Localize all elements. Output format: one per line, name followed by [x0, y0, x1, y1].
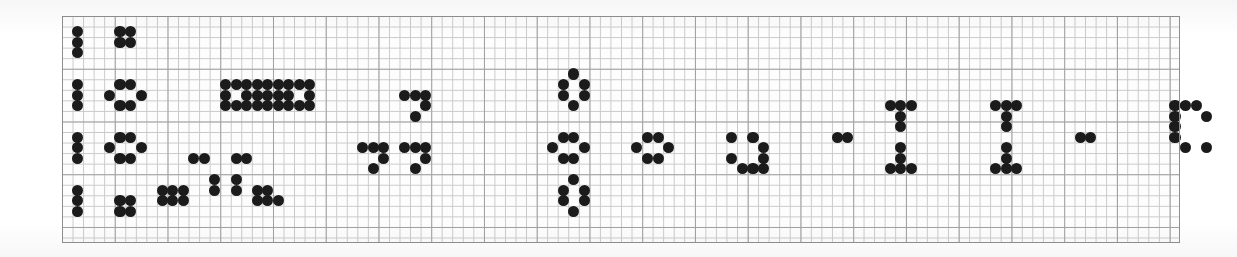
grid-dot — [568, 100, 579, 111]
grid-dot — [231, 79, 242, 90]
grid-dot — [72, 132, 83, 143]
grid-dot — [157, 195, 168, 206]
graph-paper-grid — [62, 16, 1180, 243]
grid-dot — [368, 163, 379, 174]
grid-dot — [241, 90, 252, 101]
grid-dot — [72, 142, 83, 153]
grid-dot — [157, 185, 168, 196]
grid-dot — [758, 163, 769, 174]
grid-dot — [747, 163, 758, 174]
grid-dot — [125, 26, 136, 37]
grid-dot — [747, 132, 758, 143]
grid-dot — [737, 163, 748, 174]
grid-dot — [579, 195, 590, 206]
grid-dot — [188, 153, 199, 164]
grid-dot — [114, 132, 125, 143]
grid-dot — [262, 185, 273, 196]
grid-dot — [1001, 100, 1012, 111]
grid-dot — [72, 79, 83, 90]
grid-dot — [368, 142, 379, 153]
grid-dot — [1180, 100, 1191, 111]
grid-dot — [252, 185, 263, 196]
grid-dot — [114, 153, 125, 164]
grid-dot — [410, 90, 421, 101]
grid-dot — [642, 132, 653, 143]
grid-dot — [410, 163, 421, 174]
grid-dot — [231, 185, 242, 196]
grid-dot — [273, 195, 284, 206]
grid-dot — [1169, 100, 1180, 111]
grid-dot — [990, 100, 1001, 111]
screenshot-canvas — [0, 0, 1237, 257]
grid-dot — [558, 153, 569, 164]
grid-dot — [199, 153, 210, 164]
grid-dot — [895, 142, 906, 153]
grid-dot — [283, 79, 294, 90]
grid-dot — [294, 79, 305, 90]
grid-dot — [895, 153, 906, 164]
grid-dot — [1169, 111, 1180, 122]
grid-dot — [178, 195, 189, 206]
grid-dot — [726, 132, 737, 143]
grid-dot — [1001, 142, 1012, 153]
grid-dot — [1169, 132, 1180, 143]
grid-dot — [114, 100, 125, 111]
grid-dot — [252, 90, 263, 101]
grid-dot — [410, 142, 421, 153]
grid-dot — [114, 195, 125, 206]
grid-dot — [663, 142, 674, 153]
grid-dot — [209, 174, 220, 185]
grid-dot — [252, 100, 263, 111]
grid-dot — [558, 79, 569, 90]
grid-dot — [294, 100, 305, 111]
grid-dot — [1201, 142, 1212, 153]
grid-dot — [178, 185, 189, 196]
grid-dot — [72, 206, 83, 217]
grid-dot — [72, 195, 83, 206]
grid-dot — [220, 79, 231, 90]
grid-dot — [579, 185, 590, 196]
dot-layer — [62, 16, 1180, 243]
grid-dot — [558, 195, 569, 206]
grid-dot — [167, 195, 178, 206]
grid-dot — [283, 90, 294, 101]
grid-dot — [558, 132, 569, 143]
grid-dot — [125, 206, 136, 217]
grid-dot — [136, 90, 147, 101]
grid-dot — [231, 174, 242, 185]
grid-dot — [653, 132, 664, 143]
grid-dot — [167, 185, 178, 196]
grid-dot — [262, 90, 273, 101]
grid-dot — [1075, 132, 1086, 143]
grid-dot — [895, 100, 906, 111]
grid-dot — [241, 100, 252, 111]
grid-dot — [104, 142, 115, 153]
grid-dot — [895, 111, 906, 122]
grid-dot — [642, 153, 653, 164]
grid-dot — [895, 121, 906, 132]
grid-dot — [1191, 100, 1202, 111]
grid-dot — [579, 90, 590, 101]
grid-dot — [273, 79, 284, 90]
grid-dot — [378, 142, 389, 153]
grid-dot — [72, 90, 83, 101]
grid-dot — [1011, 163, 1022, 174]
grid-dot — [420, 142, 431, 153]
grid-dot — [273, 100, 284, 111]
grid-dot — [420, 90, 431, 101]
grid-dot — [726, 153, 737, 164]
grid-dot — [558, 185, 569, 196]
grid-dot — [114, 206, 125, 217]
grid-dot — [125, 195, 136, 206]
grid-dot — [304, 79, 315, 90]
grid-dot — [125, 79, 136, 90]
grid-dot — [114, 26, 125, 37]
grid-dot — [209, 185, 220, 196]
grid-dot — [262, 195, 273, 206]
grid-dot — [262, 79, 273, 90]
grid-dot — [842, 132, 853, 143]
grid-dot — [885, 163, 896, 174]
grid-dot — [399, 142, 410, 153]
grid-dot — [420, 153, 431, 164]
grid-dot — [906, 100, 917, 111]
